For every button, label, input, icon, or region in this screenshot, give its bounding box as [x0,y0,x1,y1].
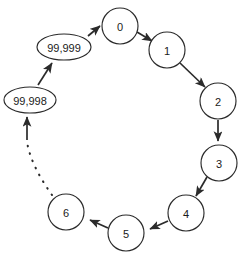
node-3-label: 3 [216,158,222,170]
ring-diagram-canvas: 0 1 2 3 4 5 6 99,998 [0,0,247,254]
node-4-label: 4 [183,208,189,220]
node-3[interactable]: 3 [201,145,237,181]
node-1[interactable]: 1 [149,32,185,68]
edge-0-to-1 [137,32,152,41]
node-2[interactable]: 2 [200,83,236,119]
node-99998-label: 99,998 [13,95,47,107]
node-0[interactable]: 0 [102,8,138,44]
node-2-label: 2 [215,96,221,108]
ring-diagram: 0 1 2 3 4 5 6 99,998 [0,0,247,254]
edge-4-to-5 [150,221,168,229]
node-5-label: 5 [123,228,129,240]
edge-99999-to-0 [88,26,100,36]
node-6[interactable]: 6 [48,194,84,230]
node-99999-label: 99,999 [47,42,81,54]
node-99999[interactable]: 99,999 [37,34,91,60]
node-6-label: 6 [63,207,69,219]
node-5[interactable]: 5 [108,215,144,251]
node-99998[interactable]: 99,998 [4,87,56,113]
edge-5-to-6 [90,220,108,228]
edge-99998-to-99999 [38,63,52,85]
edge-6-to-99998-dashed [27,142,52,195]
edge-3-to-4 [196,177,207,196]
node-1-label: 1 [164,45,170,57]
node-4[interactable]: 4 [168,195,204,231]
edge-1-to-2 [180,63,205,87]
node-0-label: 0 [117,21,123,33]
